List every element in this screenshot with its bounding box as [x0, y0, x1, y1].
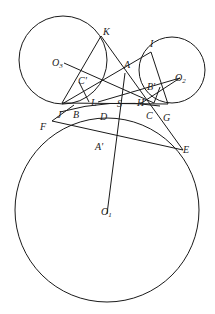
label-e: E [182, 144, 189, 155]
label-i: I [149, 38, 154, 49]
label-a-prime: A' [94, 141, 104, 152]
label-l: L [90, 97, 97, 108]
label-j: J [57, 109, 62, 120]
label-s: S [117, 98, 122, 109]
geometry-diagram: K I A O3 O2 C' B' L S H J B D C G F E A'… [0, 0, 215, 314]
line-f-e [52, 121, 183, 150]
label-h: H [136, 97, 145, 108]
circle-o2 [139, 37, 205, 103]
label-g: G [163, 112, 170, 123]
label-c: C [146, 110, 153, 121]
line-i-g [151, 52, 168, 104]
label-d: D [99, 111, 108, 122]
label-b: B [73, 109, 79, 120]
line-a-o1 [107, 73, 125, 214]
label-c-prime: C' [78, 75, 88, 86]
line-k-e [101, 36, 183, 150]
label-k: K [102, 26, 111, 37]
circle-o3 [19, 16, 107, 104]
label-o3: O3 [52, 57, 63, 70]
label-f: F [39, 121, 47, 132]
label-a: A [123, 59, 131, 70]
line-f-b [52, 105, 74, 121]
label-o2: O2 [175, 72, 186, 85]
label-b-prime: B' [147, 81, 156, 92]
label-o1: O1 [101, 206, 112, 219]
